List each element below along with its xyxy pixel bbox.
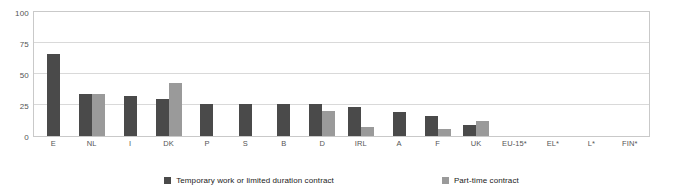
y-tick-label: 25 xyxy=(20,102,29,111)
bar-temporary xyxy=(348,107,361,136)
bar-parttime xyxy=(169,83,182,136)
x-tick-label: P xyxy=(188,139,226,153)
y-tick-label: 75 xyxy=(20,40,29,49)
bar-parttime xyxy=(92,94,105,136)
bar-parttime xyxy=(322,111,335,136)
y-tick-label: 0 xyxy=(24,133,29,142)
x-tick-label: EU-15* xyxy=(495,139,533,153)
bar-temporary xyxy=(124,96,137,136)
bar-temporary xyxy=(277,104,290,136)
bar-group xyxy=(72,12,110,136)
x-tick-label: D xyxy=(303,139,341,153)
bar-group xyxy=(495,12,533,136)
bar-group xyxy=(149,12,187,136)
bar-temporary xyxy=(393,112,406,136)
y-tick-label: 100 xyxy=(15,9,29,18)
x-tick-label: E xyxy=(34,139,72,153)
legend-label-temporary: Temporary work or limited duration contr… xyxy=(176,176,334,185)
bar-temporary xyxy=(309,104,322,136)
bar-group xyxy=(188,12,226,136)
bar-group xyxy=(418,12,456,136)
bar-group xyxy=(457,12,495,136)
bar-parttime xyxy=(476,121,489,136)
bar-temporary xyxy=(463,125,476,136)
x-tick-label: L* xyxy=(572,139,610,153)
bar-temporary xyxy=(47,54,60,136)
x-tick-label: F xyxy=(418,139,456,153)
bar-parttime xyxy=(361,127,374,136)
x-tick-label: IRL xyxy=(342,139,380,153)
bar-group xyxy=(303,12,341,136)
legend-swatch-temporary xyxy=(164,177,171,184)
bar-temporary xyxy=(239,104,252,136)
bar-temporary xyxy=(79,94,92,136)
x-tick-label: A xyxy=(380,139,418,153)
legend-swatch-parttime xyxy=(442,177,449,184)
bar-temporary xyxy=(425,116,438,136)
x-tick-label: FIN* xyxy=(611,139,649,153)
bar-group xyxy=(611,12,649,136)
x-tick-label: S xyxy=(226,139,264,153)
x-tick-label: I xyxy=(111,139,149,153)
legend-label-parttime: Part-time contract xyxy=(454,176,519,185)
bar-group xyxy=(226,12,264,136)
bar-group xyxy=(572,12,610,136)
bar-parttime xyxy=(438,129,451,136)
x-axis: ENLIDKPSBDIRLAFUKEU-15*EL*L*FIN* xyxy=(34,139,649,153)
bar-group xyxy=(342,12,380,136)
bar-group xyxy=(34,12,72,136)
x-tick-label: B xyxy=(265,139,303,153)
x-tick-label: EL* xyxy=(534,139,572,153)
bar-group xyxy=(265,12,303,136)
bar-group xyxy=(534,12,572,136)
bars-layer xyxy=(34,12,649,136)
legend-item-temporary: Temporary work or limited duration contr… xyxy=(164,176,334,185)
bar-group xyxy=(111,12,149,136)
x-tick-label: NL xyxy=(72,139,110,153)
x-tick-label: UK xyxy=(457,139,495,153)
y-tick-label: 50 xyxy=(20,71,29,80)
bar-group xyxy=(380,12,418,136)
bar-chart: 0255075100 ENLIDKPSBDIRLAFUKEU-15*EL*L*F… xyxy=(0,0,683,196)
bar-temporary xyxy=(200,104,213,136)
y-axis: 0255075100 xyxy=(0,11,29,137)
legend-item-parttime: Part-time contract xyxy=(442,176,519,185)
chart-legend: Temporary work or limited duration contr… xyxy=(0,172,683,188)
bar-temporary xyxy=(156,99,169,136)
x-tick-label: DK xyxy=(149,139,187,153)
